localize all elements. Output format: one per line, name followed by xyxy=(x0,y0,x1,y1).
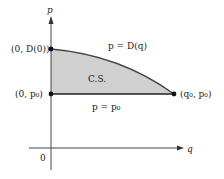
consumer-surplus-diagram: p q 0 (0, D(0)) (0, p₀) (q₀, p₀) p = D(q… xyxy=(0,0,224,179)
price-point xyxy=(49,92,54,97)
equilibrium-point xyxy=(172,92,177,97)
equilibrium-label: (q₀, p₀) xyxy=(180,89,211,99)
price-point-label: (0, p₀) xyxy=(15,89,43,99)
region-label: C.S. xyxy=(88,74,106,84)
p-axis-arrow-icon xyxy=(49,16,54,24)
demand-intercept-label: (0, D(0)) xyxy=(11,44,49,54)
q-axis-arrow-icon xyxy=(177,146,184,151)
p-axis-label: p xyxy=(47,5,53,15)
price-line-label: p = p₀ xyxy=(92,102,121,112)
consumer-surplus-region xyxy=(51,49,174,94)
demand-curve-label: p = D(q) xyxy=(108,41,147,51)
q-axis-label: q xyxy=(187,144,193,154)
origin-label: 0 xyxy=(40,153,46,163)
